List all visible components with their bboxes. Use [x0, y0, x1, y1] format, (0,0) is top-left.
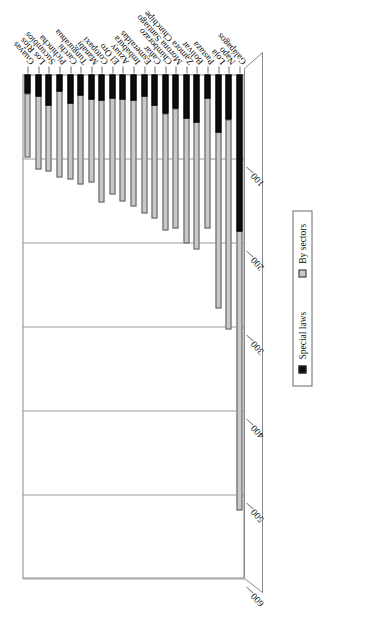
bar-segment-special-laws[interactable]	[130, 74, 136, 100]
bar-segment-by-sectors[interactable]	[162, 113, 168, 231]
bar-row[interactable]	[215, 74, 221, 307]
bar-segment-by-sectors[interactable]	[98, 99, 104, 201]
category-tick	[207, 66, 208, 73]
bar-segment-special-laws[interactable]	[193, 74, 199, 122]
bar-segment-special-laws[interactable]	[119, 74, 125, 99]
bar-row[interactable]	[56, 74, 62, 176]
gridline-300	[22, 326, 244, 327]
legend-item-special-laws: Special laws	[297, 311, 307, 373]
category-tick	[38, 66, 39, 73]
rotated-figure: 600500400300200100 GuayasLos RíosSucumbí…	[0, 0, 373, 622]
bar-segment-special-laws[interactable]	[225, 74, 231, 119]
bar-segment-special-laws[interactable]	[88, 74, 94, 99]
bar-row[interactable]	[88, 74, 94, 182]
bar-segment-special-laws[interactable]	[109, 74, 115, 98]
bar-segment-by-sectors[interactable]	[130, 99, 136, 206]
bar-segment-special-laws[interactable]	[35, 74, 41, 96]
category-tick	[112, 66, 113, 73]
bar-segment-by-sectors[interactable]	[119, 98, 125, 200]
bar-row[interactable]	[225, 74, 231, 328]
category-tick	[239, 66, 240, 73]
category-tick	[59, 66, 60, 73]
bar-segment-by-sectors[interactable]	[215, 131, 221, 307]
bar-segment-special-laws[interactable]	[172, 74, 178, 108]
bar-segment-by-sectors[interactable]	[56, 90, 62, 177]
legend-label-special-laws: Special laws	[297, 311, 307, 359]
bar-segment-special-laws[interactable]	[45, 74, 51, 105]
bar-segment-by-sectors[interactable]	[204, 97, 210, 228]
bar-row[interactable]	[35, 74, 41, 168]
bar-segment-special-laws[interactable]	[151, 74, 157, 105]
bar-row[interactable]	[98, 74, 104, 201]
bar-segment-special-laws[interactable]	[24, 74, 30, 93]
bar-row[interactable]	[67, 74, 73, 178]
bar-segment-special-laws[interactable]	[141, 74, 147, 96]
bar-row[interactable]	[109, 74, 115, 193]
chart-legend: Special laws By sectors	[292, 210, 312, 386]
legend-item-by-sectors: By sectors	[297, 223, 307, 277]
category-tick	[133, 66, 134, 73]
bar-segment-by-sectors[interactable]	[109, 97, 115, 194]
bar-segment-special-laws[interactable]	[215, 74, 221, 132]
gridline-600	[22, 578, 244, 579]
category-tick	[70, 66, 71, 73]
bar-row[interactable]	[77, 74, 83, 183]
gridline-500	[22, 494, 244, 495]
bar-segment-by-sectors[interactable]	[88, 98, 94, 182]
bar-row[interactable]	[130, 74, 136, 205]
category-tick	[144, 66, 145, 73]
bar-segment-by-sectors[interactable]	[67, 102, 73, 179]
bar-segment-by-sectors[interactable]	[193, 121, 199, 249]
bar-row[interactable]	[151, 74, 157, 217]
legend-swatch-by-sectors	[298, 269, 306, 277]
bar-segment-special-laws[interactable]	[56, 74, 62, 91]
bar-row[interactable]	[119, 74, 125, 200]
gridline-400	[22, 410, 244, 411]
bar-row[interactable]	[193, 74, 199, 248]
bar-segment-by-sectors[interactable]	[45, 104, 51, 171]
chart-screenshot: 600500400300200100 GuayasLos RíosSucumbí…	[0, 0, 373, 622]
bar-segment-by-sectors[interactable]	[151, 104, 157, 217]
bar-row[interactable]	[204, 74, 210, 227]
bar-segment-by-sectors[interactable]	[141, 95, 147, 213]
bar-segment-special-laws[interactable]	[98, 74, 104, 100]
gridline-200	[22, 242, 244, 243]
plot-area	[22, 74, 244, 578]
bar-segment-special-laws[interactable]	[162, 74, 168, 113]
bar-row[interactable]	[183, 74, 189, 242]
bar-segment-by-sectors[interactable]	[225, 119, 231, 329]
category-tick	[218, 66, 219, 73]
bar-row[interactable]	[162, 74, 168, 229]
bar-segment-special-laws[interactable]	[204, 74, 210, 98]
bar-segment-by-sectors[interactable]	[24, 93, 30, 158]
bar-row[interactable]	[172, 74, 178, 227]
bar-row[interactable]	[24, 74, 30, 156]
bar-row[interactable]	[141, 74, 147, 212]
legend-label-by-sectors: By sectors	[297, 223, 307, 263]
bar-segment-by-sectors[interactable]	[172, 108, 178, 228]
bar-row[interactable]	[45, 74, 51, 171]
category-tick	[186, 66, 187, 73]
bar-segment-by-sectors[interactable]	[183, 117, 189, 243]
bar-segment-special-laws[interactable]	[77, 74, 83, 95]
bar-segment-by-sectors[interactable]	[35, 95, 41, 169]
legend-swatch-special-laws	[298, 365, 306, 373]
bar-segment-by-sectors[interactable]	[77, 94, 83, 184]
category-tick	[91, 66, 92, 73]
category-tick	[165, 66, 166, 73]
bar-segment-special-laws[interactable]	[67, 74, 73, 103]
bar-segment-special-laws[interactable]	[183, 74, 189, 118]
